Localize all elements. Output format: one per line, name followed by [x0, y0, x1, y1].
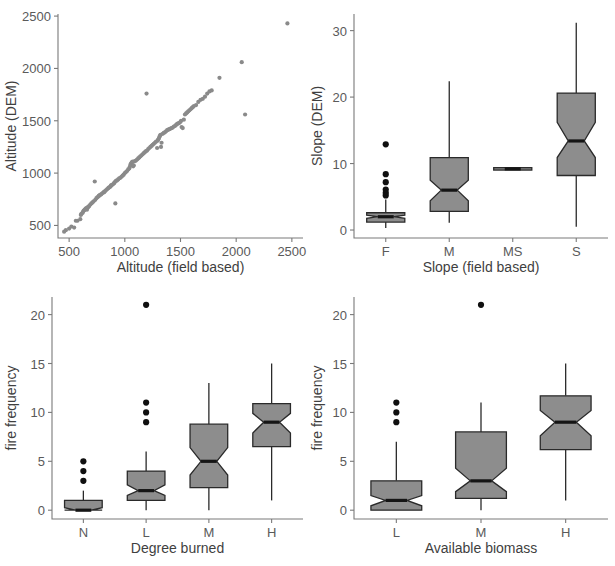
- y-tick-label: 0: [340, 223, 347, 238]
- outlier-point: [143, 409, 149, 415]
- data-point: [243, 112, 247, 116]
- outlier-point: [478, 302, 484, 308]
- outlier-point: [143, 419, 149, 425]
- y-axis-title: Slope (DEM): [309, 86, 325, 166]
- box-body: [190, 424, 228, 488]
- outlier-point: [80, 458, 86, 464]
- x-axis-title: Slope (field based): [423, 259, 540, 275]
- outlier-point: [393, 409, 399, 415]
- x-tick-label-F: F: [382, 244, 390, 259]
- data-point: [210, 88, 214, 92]
- outlier-point: [393, 400, 399, 406]
- data-point: [72, 225, 76, 229]
- x-axis-title: Degree burned: [131, 540, 224, 556]
- data-point: [285, 21, 289, 25]
- x-tick-label-M: M: [203, 525, 214, 540]
- y-tick-label: 20: [333, 308, 347, 323]
- panel-slope-boxplot: 0102030FMMSSSlope (field based)Slope (DE…: [308, 0, 615, 285]
- boxplot-group-H: [253, 364, 291, 501]
- box-body: [557, 93, 595, 175]
- box-body: [430, 158, 468, 212]
- data-point: [113, 201, 117, 205]
- y-tick-label: 20: [31, 308, 45, 323]
- data-point: [144, 91, 148, 95]
- x-tick-label-MS: MS: [503, 244, 523, 259]
- x-tick-label-H: H: [561, 525, 570, 540]
- outlier-point: [383, 179, 389, 185]
- x-tick-label: 1500: [166, 244, 195, 259]
- figure-container: 50010001500200025005001000150020002500Al…: [0, 0, 615, 566]
- data-point: [240, 60, 244, 64]
- y-tick-label: 5: [340, 454, 347, 469]
- y-tick-label: 500: [29, 218, 51, 233]
- data-point: [159, 141, 163, 145]
- boxplot-fire-frequency-degree-burned: 05101520NLMHDegree burnedfire frequency: [0, 283, 310, 566]
- y-tick-label: 20: [333, 90, 347, 105]
- y-tick-label: 2000: [22, 61, 51, 76]
- x-tick-label: 500: [58, 244, 80, 259]
- x-tick-label-H: H: [267, 525, 276, 540]
- outlier-point: [383, 186, 389, 192]
- boxplot-group-H: [540, 364, 591, 501]
- data-point: [155, 146, 159, 150]
- data-point: [132, 163, 136, 167]
- boxplot-group-S: [557, 23, 595, 227]
- y-axis-title: fire frequency: [3, 366, 19, 451]
- y-tick-label: 0: [340, 503, 347, 518]
- x-axis-title: Altitude (field based): [117, 259, 245, 275]
- data-point: [181, 126, 185, 130]
- boxplot-group-F: [367, 141, 405, 228]
- boxplot-group-M: [430, 81, 468, 223]
- outlier-point: [383, 141, 389, 147]
- boxplot-slope-dem: 0102030FMMSSSlope (field based)Slope (DE…: [308, 0, 615, 285]
- x-tick-label-L: L: [143, 525, 150, 540]
- outlier-point: [80, 468, 86, 474]
- data-point: [217, 76, 221, 80]
- y-axis-title: fire frequency: [309, 366, 325, 451]
- boxplot-group-L: [127, 302, 165, 510]
- x-tick-label: 2500: [277, 244, 306, 259]
- outlier-point: [143, 302, 149, 308]
- y-tick-label: 15: [31, 357, 45, 372]
- boxplot-group-MS: [494, 168, 532, 170]
- y-tick-label: 1000: [22, 166, 51, 181]
- x-tick-label: 2000: [222, 244, 251, 259]
- x-tick-label-M: M: [476, 525, 487, 540]
- boxplot-group-M: [456, 302, 507, 510]
- y-tick-label: 0: [38, 503, 45, 518]
- outlier-point: [143, 400, 149, 406]
- outlier-point: [393, 419, 399, 425]
- y-tick-label: 10: [333, 157, 347, 172]
- panel-altitude-scatter: 50010001500200025005001000150020002500Al…: [0, 0, 310, 285]
- x-tick-label-M: M: [444, 244, 455, 259]
- scatter-plot-altitude: 50010001500200025005001000150020002500Al…: [0, 0, 310, 285]
- x-axis-title: Available biomass: [425, 540, 538, 556]
- x-tick-label-L: L: [393, 525, 400, 540]
- x-tick-label-S: S: [572, 244, 581, 259]
- outlier-point: [383, 171, 389, 177]
- panel-available-biomass-boxplot: 05101520LMHAvailable biomassfire frequen…: [308, 283, 615, 566]
- boxplot-group-M: [190, 383, 228, 510]
- data-point: [159, 145, 163, 149]
- outlier-point: [80, 478, 86, 484]
- box-body: [253, 404, 291, 447]
- box-body: [127, 471, 165, 500]
- boxplot-group-L: [371, 400, 422, 511]
- panel-degree-burned-boxplot: 05101520NLMHDegree burnedfire frequency: [0, 283, 310, 566]
- y-axis-title: Altitude (DEM): [3, 80, 19, 171]
- y-tick-label: 10: [333, 405, 347, 420]
- y-tick-label: 5: [38, 454, 45, 469]
- data-point: [78, 217, 82, 221]
- box-body: [456, 432, 507, 499]
- boxplot-fire-frequency-available-biomass: 05101520LMHAvailable biomassfire frequen…: [308, 283, 615, 566]
- y-tick-label: 10: [31, 405, 45, 420]
- y-tick-label: 1500: [22, 114, 51, 129]
- box-body: [371, 481, 422, 510]
- data-point: [182, 118, 186, 122]
- y-tick-label: 15: [333, 357, 347, 372]
- boxplot-group-N: [65, 458, 103, 510]
- data-point: [93, 179, 97, 183]
- x-tick-label-N: N: [79, 525, 88, 540]
- y-tick-label: 2500: [22, 9, 51, 24]
- x-tick-label: 1000: [110, 244, 139, 259]
